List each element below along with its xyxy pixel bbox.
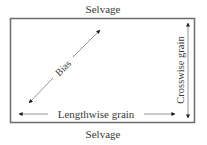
bottom-selvage-label: Selvage (86, 128, 121, 140)
crosswise-grain-label: Crosswise grain (175, 36, 186, 104)
lengthwise-grain-label: Lengthwise grain (58, 108, 135, 120)
bias-arrow: Bias (29, 30, 100, 103)
lengthwise-grain-arrow: Lengthwise grain (19, 108, 175, 120)
bias-label: Bias (53, 58, 73, 78)
bias-arrow-lower-segment (29, 78, 53, 103)
fabric-piece-outline (11, 19, 195, 123)
diagram-canvas: Selvage Selvage Bias Lengthwise grain Cr… (0, 0, 207, 145)
crosswise-grain-arrow: Crosswise grain (175, 23, 188, 118)
top-selvage-label: Selvage (86, 3, 121, 15)
fabric-grain-diagram: Selvage Selvage Bias Lengthwise grain Cr… (0, 0, 207, 145)
bias-arrow-upper-segment (73, 30, 100, 57)
